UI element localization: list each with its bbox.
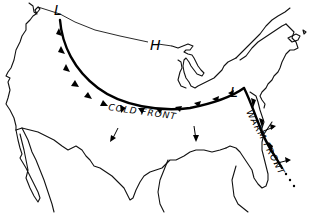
high-pressure-label: H (150, 37, 161, 53)
low-pressure-label-northwest: L (54, 2, 62, 18)
cold-front (56, 20, 244, 114)
arrow-icon (110, 128, 118, 142)
weather-map: L H L COLD FRONT WARM FRONT (0, 0, 312, 217)
arrow-icon (193, 126, 199, 142)
cold-front-label: COLD FRONT (108, 102, 178, 122)
